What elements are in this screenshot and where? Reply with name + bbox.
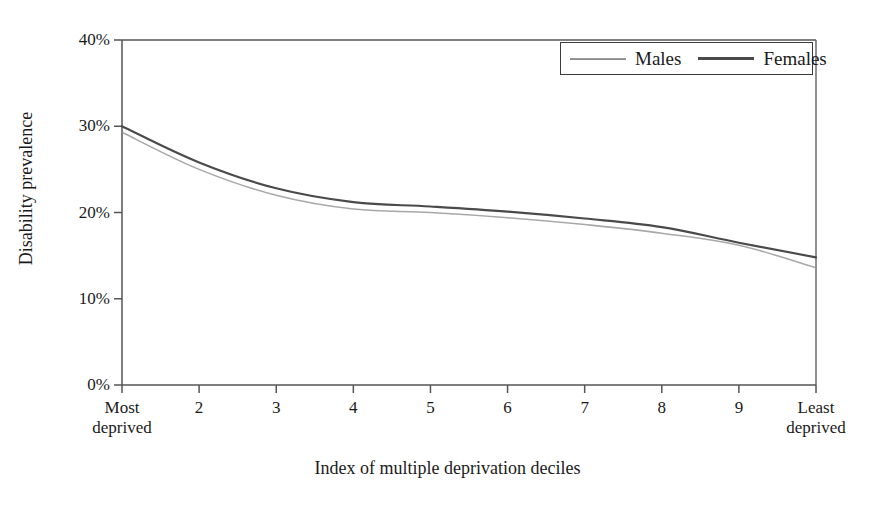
y-tick-label: 20% xyxy=(40,204,110,221)
y-tick-label: 10% xyxy=(40,290,110,307)
legend-line-males-icon xyxy=(570,54,626,64)
y-tick-label: 0% xyxy=(40,376,110,393)
x-tick-label-line2: deprived xyxy=(62,418,182,438)
legend-label-females: Females xyxy=(763,49,826,68)
legend-entry-females: Females xyxy=(698,43,826,74)
x-tick-label-line2: deprived xyxy=(756,418,876,438)
series-line-females xyxy=(122,126,816,257)
chart-legend: Males Females xyxy=(560,42,813,75)
y-tick-label: 30% xyxy=(40,117,110,134)
legend-line-females-icon xyxy=(698,54,754,64)
chart-figure: Disability prevalence Index of multiple … xyxy=(0,0,895,506)
legend-entry-males: Males xyxy=(570,43,681,74)
x-tick-label: Leastdeprived xyxy=(756,398,876,438)
legend-label-males: Males xyxy=(635,49,681,68)
y-tick-label: 40% xyxy=(40,31,110,48)
x-tick-label-line1: Least xyxy=(756,398,876,418)
series-line-males xyxy=(122,132,816,267)
